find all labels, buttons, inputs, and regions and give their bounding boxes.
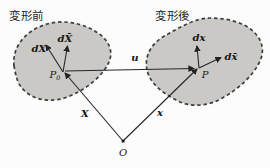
label-after-deformation: 変形後	[155, 9, 190, 23]
vector-X-line	[65, 73, 123, 141]
deformation-diagram: 変形前 変形後 dX dX̄ dx dx̄ u X x P0 P O	[0, 0, 270, 168]
diagram-canvas: 変形前 変形後 dX dX̄ dx dx̄ u X x P0 P O	[0, 0, 270, 168]
label-before-deformation: 変形前	[9, 9, 44, 23]
label-point-P: P	[201, 69, 209, 80]
label-origin-O: O	[119, 147, 127, 158]
label-vector-X: X	[80, 108, 90, 119]
origin-dot	[122, 140, 125, 143]
label-vector-dX-bar: dX̄	[58, 33, 74, 44]
label-vector-dx-bar: dx̄	[225, 51, 239, 62]
label-vector-dx: dx	[193, 32, 207, 43]
label-vector-x: x	[156, 107, 164, 118]
label-vector-dX: dX	[32, 43, 48, 54]
label-point-P0-subscript: 0	[56, 74, 60, 82]
label-vector-u: u	[131, 52, 138, 63]
